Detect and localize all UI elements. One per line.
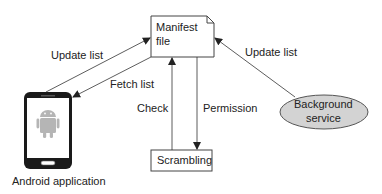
edge-label-update-list-right: Update list bbox=[245, 46, 297, 59]
scrambling-label: Scrambling bbox=[157, 154, 212, 167]
edge-label-check: Check bbox=[137, 102, 168, 115]
background-label-line1: Background bbox=[294, 98, 353, 111]
background-label-line2: service bbox=[306, 112, 341, 125]
edge-label-fetch-list: Fetch list bbox=[110, 78, 154, 91]
android-label: Android application bbox=[12, 175, 106, 188]
manifest-label-line2: file bbox=[156, 35, 170, 48]
edge-fetch-list bbox=[73, 57, 151, 97]
edge-label-update-list-left: Update list bbox=[51, 49, 103, 62]
android-phone-icon bbox=[24, 92, 72, 169]
edge-label-permission: Permission bbox=[203, 102, 257, 115]
manifest-label-line1: Manifest bbox=[156, 21, 198, 34]
